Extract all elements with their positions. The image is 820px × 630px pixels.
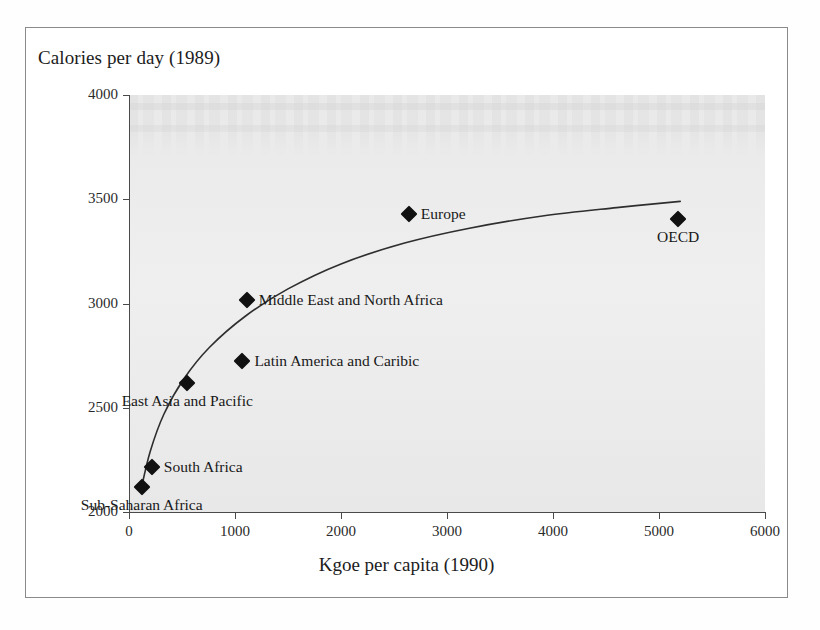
y-tick-label: 3500 <box>88 190 118 207</box>
y-axis-title: Calories per day (1989) <box>38 47 220 69</box>
x-tick-label: 5000 <box>644 523 674 540</box>
x-tick-mark <box>553 512 554 519</box>
trend-curve <box>129 95 765 512</box>
x-tick-mark <box>341 512 342 519</box>
x-axis-title: Kgoe per capita (1990) <box>25 554 788 576</box>
data-point-label: East Asia and Pacific <box>122 392 253 410</box>
data-point-label: Latin America and Caribic <box>254 352 419 370</box>
scanned-page: Calories per day (1989) 2000250030003500… <box>0 0 820 630</box>
x-tick-label: 1000 <box>220 523 250 540</box>
data-point-label: Europe <box>421 205 466 223</box>
data-point-label: South Africa <box>164 458 243 476</box>
x-tick-label: 4000 <box>538 523 568 540</box>
x-tick-label: 6000 <box>750 523 780 540</box>
data-point-label: Middle East and North Africa <box>259 291 443 309</box>
x-tick-label: 0 <box>125 523 133 540</box>
x-tick-mark <box>765 512 766 519</box>
data-point-label: Sub-Saharan Africa <box>81 496 203 514</box>
y-tick-label: 2500 <box>88 399 118 416</box>
y-tick-label: 4000 <box>88 86 118 103</box>
data-point-label: OECD <box>657 228 699 246</box>
x-tick-label: 2000 <box>326 523 356 540</box>
x-tick-mark <box>659 512 660 519</box>
chart-figure: Calories per day (1989) 2000250030003500… <box>25 27 788 598</box>
x-tick-label: 3000 <box>432 523 462 540</box>
y-tick-label: 3000 <box>88 295 118 312</box>
x-tick-mark <box>447 512 448 519</box>
x-tick-mark <box>235 512 236 519</box>
